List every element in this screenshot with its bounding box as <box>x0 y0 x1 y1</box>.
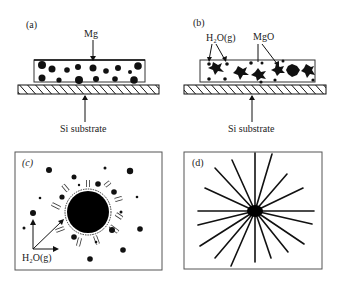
h2o-label-b: H₂O(g) <box>206 33 236 43</box>
substrate-label-a: Si substrate <box>60 124 106 134</box>
mgo-label: MgO <box>253 32 274 42</box>
panel-b-label: (b) <box>193 18 205 28</box>
mg-label: Mg <box>84 29 98 39</box>
mg-core <box>67 191 109 233</box>
panel-a <box>18 40 159 122</box>
panel-d <box>184 152 322 269</box>
h2o-label-c: H₂O(g) <box>22 253 52 263</box>
diagram-canvas <box>0 0 343 282</box>
panel-d-label: (d) <box>192 158 204 168</box>
si-substrate <box>18 85 159 94</box>
substrate-label-b: Si substrate <box>228 124 274 134</box>
mg-seed-d <box>247 205 263 217</box>
si-substrate-b <box>184 85 326 94</box>
panel-b <box>184 44 326 122</box>
panel-a-label: (a) <box>26 20 37 30</box>
panel-c-label: (c) <box>22 158 33 168</box>
